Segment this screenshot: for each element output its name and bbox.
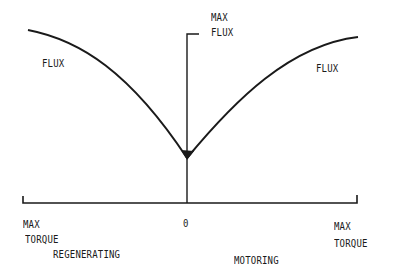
flux-axis <box>187 34 199 203</box>
max-torque-right-line1: MAX <box>334 221 351 232</box>
max-torque-right-line2: TORQUE <box>334 238 368 249</box>
origin-label: 0 <box>183 218 189 229</box>
flux-label-right: FLUX <box>316 63 338 74</box>
curve-vertex-marker <box>181 150 194 160</box>
max-torque-left-line1: MAX <box>23 219 40 230</box>
max-flux-label-line2: FLUX <box>211 27 233 38</box>
max-torque-left-line2: TORQUE <box>25 234 59 245</box>
torque-axis <box>23 195 357 203</box>
flux-curve-left <box>28 30 187 158</box>
max-flux-label-line1: MAX <box>211 12 228 23</box>
flux-label-left: FLUX <box>42 58 64 69</box>
regenerating-label: REGENERATING <box>53 249 120 260</box>
motoring-label: MOTORING <box>234 255 279 266</box>
flux-curve-right <box>187 37 358 158</box>
flux-torque-diagram: FLUX MAX FLUX FLUX MAX TORQUE REGENERATI… <box>0 0 394 279</box>
